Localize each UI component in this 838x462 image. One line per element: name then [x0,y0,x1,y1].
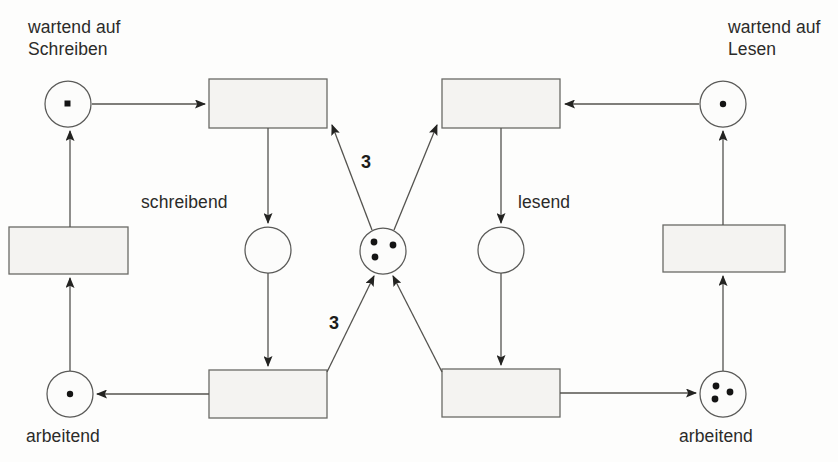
token [720,101,726,107]
label-wartend-auf-lesen: wartend auf Lesen [728,16,821,60]
petri-net-diagram: wartend auf Schreiben wartend auf Lesen … [0,0,838,462]
arc-central-to-beginwrite [332,125,372,230]
token [713,383,720,390]
place-lesend[interactable] [478,227,524,273]
transition-begin-read[interactable] [442,79,560,128]
transition-begin-write[interactable] [209,79,327,128]
arc-weight-lower: 3 [329,313,339,334]
label-arbeitend-left: arbeitend [26,425,100,447]
token [372,254,379,261]
token [712,396,719,403]
token [67,391,73,397]
petri-net-graphics [0,0,838,462]
place-arbeitend-left[interactable] [47,371,93,417]
label-arbeitend-right: arbeitend [679,425,753,447]
arc-central-to-beginread [394,125,437,230]
transition-end-write[interactable] [209,370,327,418]
place-wartend-auf-lesen[interactable] [700,81,746,127]
transition-end-read[interactable] [442,369,560,417]
place-arbeitend-right[interactable] [700,371,746,417]
token [371,239,378,246]
label-lesend: lesend [518,191,570,213]
arc-weight-upper: 3 [361,152,371,173]
label-wartend-auf-schreiben: wartend auf Schreiben [28,16,121,60]
token [65,101,71,107]
label-schreibend: schreibend [141,191,228,213]
token [390,242,397,249]
place-schreibend[interactable] [245,227,291,273]
place-semaphor[interactable] [360,228,406,274]
place-wartend-auf-schreiben[interactable] [45,81,91,127]
arc-endread-to-central [393,276,442,372]
token [727,389,734,396]
transition-request-write[interactable] [9,227,128,274]
transition-request-read[interactable] [663,225,785,272]
